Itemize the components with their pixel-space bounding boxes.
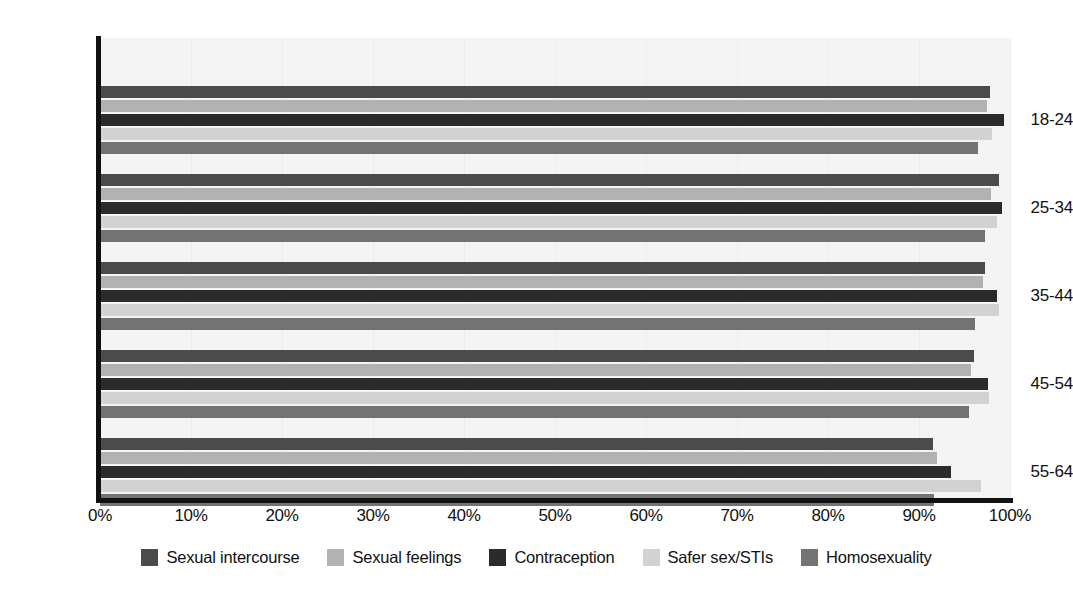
bar[interactable]: [100, 128, 992, 140]
legend-swatch-icon: [327, 549, 344, 566]
bar-row: [100, 128, 1010, 140]
x-tick-label-30: 30%: [333, 506, 413, 526]
bar[interactable]: [100, 114, 1004, 126]
bar-row: [100, 438, 1010, 450]
y-tick-label-18-24: 18-24: [985, 110, 1073, 130]
bar-row: [100, 100, 1010, 112]
x-tick-label-100: 100%: [970, 506, 1050, 526]
bar-row: [100, 216, 1010, 228]
bar[interactable]: [100, 304, 999, 316]
x-tick-label-0: 0%: [60, 506, 140, 526]
bar-group-35-44: [100, 262, 1010, 330]
bar[interactable]: [100, 480, 981, 492]
bar-row: [100, 188, 1010, 200]
chart-legend: Sexual intercourseSexual feelingsContrac…: [0, 548, 1073, 567]
bar[interactable]: [100, 452, 937, 464]
legend-label: Homosexuality: [826, 548, 932, 567]
bar[interactable]: [100, 466, 951, 478]
bar[interactable]: [100, 318, 975, 330]
bar[interactable]: [100, 290, 997, 302]
bar[interactable]: [100, 142, 978, 154]
y-tick-label-55-64: 55-64: [985, 462, 1073, 482]
legend-swatch-icon: [643, 549, 660, 566]
bar-row: [100, 452, 1010, 464]
bar[interactable]: [100, 406, 969, 418]
bar-group-55-64: [100, 438, 1010, 506]
x-tick-label-10: 10%: [151, 506, 231, 526]
bar-row: [100, 86, 1010, 98]
bar-group-45-54: [100, 350, 1010, 418]
y-tick-label-25-34: 25-34: [985, 198, 1073, 218]
bar[interactable]: [100, 378, 988, 390]
x-tick-label-90: 90%: [879, 506, 959, 526]
legend-label: Sexual intercourse: [166, 548, 299, 567]
bar[interactable]: [100, 230, 985, 242]
bar-group-25-34: [100, 174, 1010, 242]
bar[interactable]: [100, 174, 999, 186]
bar[interactable]: [100, 216, 997, 228]
legend-swatch-icon: [141, 549, 158, 566]
bar[interactable]: [100, 350, 974, 362]
bar-row: [100, 318, 1010, 330]
bar[interactable]: [100, 262, 985, 274]
bar[interactable]: [100, 188, 991, 200]
x-tick-label-80: 80%: [788, 506, 868, 526]
bar-row: [100, 276, 1010, 288]
bar-row: [100, 304, 1010, 316]
legend-label: Sexual feelings: [352, 548, 461, 567]
bar-row: [100, 406, 1010, 418]
x-tick-label-60: 60%: [606, 506, 686, 526]
y-axis-line: [96, 36, 101, 502]
x-tick-label-20: 20%: [242, 506, 322, 526]
legend-label: Contraception: [514, 548, 614, 567]
bar[interactable]: [100, 202, 1002, 214]
bar-row: [100, 480, 1010, 492]
legend-item[interactable]: Sexual feelings: [327, 548, 461, 567]
legend-label: Safer sex/STIs: [668, 548, 773, 567]
legend-item[interactable]: Sexual intercourse: [141, 548, 299, 567]
y-tick-label-35-44: 35-44: [985, 286, 1073, 306]
bar[interactable]: [100, 276, 983, 288]
legend-item[interactable]: Contraception: [489, 548, 614, 567]
bar[interactable]: [100, 100, 987, 112]
x-axis-line: [96, 498, 1013, 503]
bar-row: [100, 114, 1010, 126]
bar[interactable]: [100, 392, 989, 404]
y-tick-label-45-54: 45-54: [985, 374, 1073, 394]
legend-swatch-icon: [801, 549, 818, 566]
gridline: [1010, 38, 1011, 500]
bar-row: [100, 466, 1010, 478]
bar-row: [100, 174, 1010, 186]
legend-swatch-icon: [489, 549, 506, 566]
x-tick-label-40: 40%: [424, 506, 504, 526]
x-tick-label-50: 50%: [515, 506, 595, 526]
bar-row: [100, 290, 1010, 302]
bar[interactable]: [100, 86, 990, 98]
bar-group-18-24: [100, 86, 1010, 154]
bar-row: [100, 378, 1010, 390]
plot-area: [100, 38, 1010, 500]
x-tick-label-70: 70%: [697, 506, 777, 526]
legend-item[interactable]: Homosexuality: [801, 548, 932, 567]
bar-row: [100, 350, 1010, 362]
bar[interactable]: [100, 438, 933, 450]
bar-row: [100, 202, 1010, 214]
bar-row: [100, 364, 1010, 376]
bar-row: [100, 230, 1010, 242]
legend-item[interactable]: Safer sex/STIs: [643, 548, 773, 567]
bar-row: [100, 262, 1010, 274]
bar-row: [100, 392, 1010, 404]
bar[interactable]: [100, 364, 971, 376]
bar-row: [100, 142, 1010, 154]
horizontal-bar-chart: 18-2425-3435-4445-5455-64 0%10%20%30%40%…: [0, 0, 1073, 604]
